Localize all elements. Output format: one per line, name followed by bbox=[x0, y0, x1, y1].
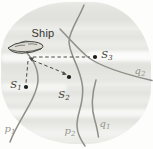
hyperbola-q1 bbox=[92, 80, 98, 137]
station-s3-dot bbox=[93, 55, 97, 59]
ship-label: Ship bbox=[32, 28, 55, 39]
curve-q1-label: q1 bbox=[100, 119, 111, 131]
distance-line-s1 bbox=[26, 61, 28, 83]
s2-sub: 2 bbox=[65, 94, 69, 102]
q1-sub: 1 bbox=[106, 123, 110, 131]
curve-p1-label: p1 bbox=[5, 124, 16, 136]
station-s1-label: S1 bbox=[10, 80, 21, 92]
s1-sub: 1 bbox=[17, 84, 21, 92]
curve-q2-label: q2 bbox=[135, 66, 146, 78]
s3-base: S bbox=[101, 49, 108, 60]
station-s3-label: S3 bbox=[101, 50, 112, 62]
station-s1-dot bbox=[24, 85, 28, 89]
s3-sub: 3 bbox=[108, 54, 112, 62]
diagram-canvas bbox=[0, 0, 153, 149]
station-s2-dot bbox=[67, 75, 71, 79]
s2-base: S bbox=[58, 89, 65, 100]
station-s2-label: S2 bbox=[58, 90, 69, 102]
p2-sub: 2 bbox=[71, 130, 75, 138]
curve-p2-label: p2 bbox=[65, 126, 76, 138]
p1-sub: 1 bbox=[11, 128, 15, 136]
loran-navigation-diagram: Ship S1 S2 S3 p1 p2 q1 q2 bbox=[0, 0, 153, 149]
arrowhead-to-s2 bbox=[62, 71, 67, 75]
hyperbola-p2 bbox=[69, 5, 85, 146]
ship-icon bbox=[8, 41, 43, 53]
s1-base: S bbox=[10, 79, 17, 90]
q2-sub: 2 bbox=[141, 70, 145, 78]
